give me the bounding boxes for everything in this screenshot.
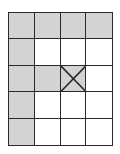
grid-cell-r3-c1 xyxy=(35,92,61,118)
grid-cell-r0-c2 xyxy=(61,13,87,39)
grid-cell-r2-c3 xyxy=(86,66,112,92)
grid-cell-r0-c3 xyxy=(86,13,112,39)
x-mark-icon xyxy=(61,66,86,91)
grid-cell-r4-c1 xyxy=(35,119,61,145)
grid-cell-r1-c1 xyxy=(35,39,61,65)
grid-cell-r3-c2 xyxy=(61,92,87,118)
grid-cell-r2-c0 xyxy=(9,66,35,92)
grid-cell-r0-c0 xyxy=(9,13,35,39)
grid-cell-r1-c2 xyxy=(61,39,87,65)
grid-cell-r2-c2 xyxy=(61,66,87,92)
grid-cell-r3-c0 xyxy=(9,92,35,118)
grid-cell-r4-c2 xyxy=(61,119,87,145)
grid-diagram xyxy=(8,12,113,146)
grid-cell-r1-c0 xyxy=(9,39,35,65)
grid-cell-r2-c1 xyxy=(35,66,61,92)
grid-cell-r4-c0 xyxy=(9,119,35,145)
grid-cell-r4-c3 xyxy=(86,119,112,145)
grid-cell-r3-c3 xyxy=(86,92,112,118)
grid-cell-r1-c3 xyxy=(86,39,112,65)
grid-cell-r0-c1 xyxy=(35,13,61,39)
